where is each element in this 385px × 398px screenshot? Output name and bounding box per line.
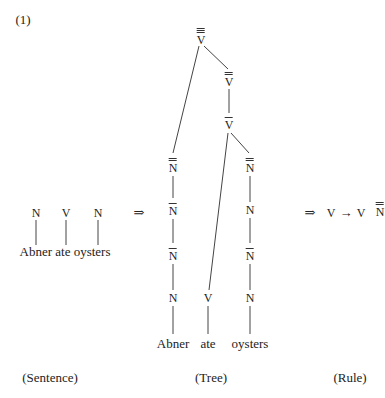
- caption-rule: (Rule): [333, 371, 366, 385]
- tree-word-oysters: oysters: [232, 337, 269, 351]
- tree-node-n-left-bar1b: N: [169, 248, 178, 262]
- tree-node-v-bar0: V: [204, 292, 213, 304]
- tree-node-n-right-bar0b: N: [246, 292, 255, 304]
- rule-rhs-complement: N: [376, 202, 385, 218]
- tree-word-ate: ate: [200, 337, 215, 351]
- example-number: (1): [15, 13, 30, 27]
- sentence-category-v: V: [62, 207, 71, 219]
- tree-node-n-left-bar0: N: [169, 292, 178, 304]
- tree-edges: [0, 0, 385, 398]
- rule-lhs: V: [327, 207, 336, 219]
- rule-rhs-head: V: [357, 207, 366, 219]
- tree-node-n-right-bar0a: N: [246, 204, 255, 216]
- tree-node-v-bar1: V: [225, 117, 234, 131]
- sentence-category-n2: N: [94, 207, 103, 219]
- tree-node-n-right-bar1: N: [246, 248, 255, 262]
- tree-node-v-double-bar-top: V: [197, 28, 206, 46]
- caption-tree: (Tree): [195, 371, 227, 385]
- sentence-category-n1: N: [32, 207, 41, 219]
- tree-node-n-left-bar2: N: [169, 158, 178, 174]
- tree-node-v-bar2: V: [225, 72, 234, 88]
- sentence-words: Abner ate oysters: [20, 245, 111, 259]
- caption-sentence: (Sentence): [22, 371, 78, 385]
- rule-arrow: →: [340, 206, 353, 220]
- derivation-arrow-1: ⇒: [134, 206, 145, 220]
- tree-node-n-right-bar2: N: [246, 158, 255, 174]
- tree-node-n-left-bar1a: N: [169, 203, 178, 217]
- derivation-arrow-2: ⇒: [305, 206, 316, 220]
- tree-word-abner: Abner: [157, 337, 190, 351]
